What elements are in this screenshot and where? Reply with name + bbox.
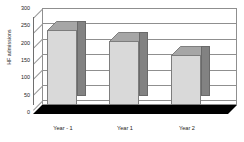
y-tick-label: 250: [8, 23, 30, 28]
x-tick-label-year-2: Year 2: [157, 125, 217, 131]
plot-floor: [33, 105, 237, 114]
x-tick-label-year-minus-1: Year - 1: [33, 125, 93, 131]
bar-front-face: [47, 30, 77, 106]
y-tick-label: 50: [8, 93, 30, 98]
bar-year-minus-1[interactable]: [47, 30, 77, 106]
y-tick-label: 100: [8, 75, 30, 80]
chart-figure: HF admissions 300 250 200 150 100 50 0: [0, 0, 244, 142]
x-tick-label-year-1: Year 1: [95, 125, 155, 131]
floor-shadow-icon: [33, 105, 237, 114]
y-axis-line: [33, 17, 34, 105]
gridline: [42, 8, 237, 9]
y-tick-label: 300: [8, 6, 30, 11]
bar-year-2[interactable]: [171, 55, 201, 105]
bar-side-face: [201, 46, 210, 96]
bar-year-1[interactable]: [109, 41, 139, 105]
bar-front-face: [109, 41, 139, 105]
bar-front-face: [171, 55, 201, 105]
y-axis-tick-labels: 300 250 200 150 100 50 0: [8, 0, 30, 142]
y-tick-label: 200: [8, 41, 30, 46]
plot-area: [33, 8, 237, 114]
bar-side-face: [139, 32, 148, 96]
y-tick-label: 0: [8, 110, 30, 115]
bar-side-face: [77, 21, 86, 97]
y-tick-label: 150: [8, 58, 30, 63]
